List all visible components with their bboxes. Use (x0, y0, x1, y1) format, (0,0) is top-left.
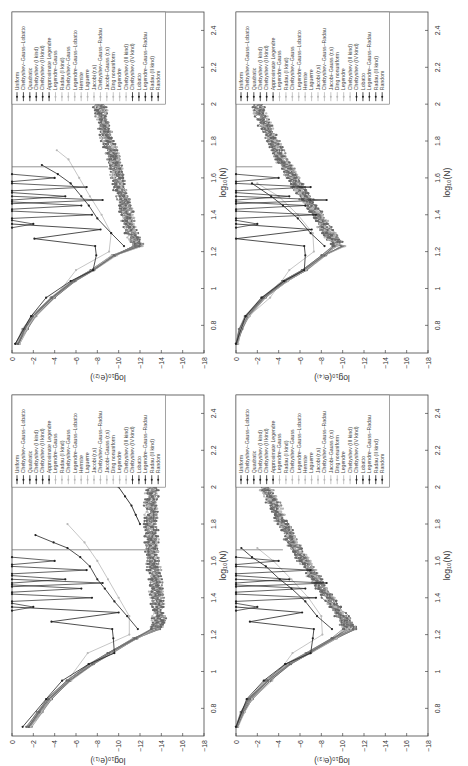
y-tick-label: −12 (361, 740, 368, 752)
x-tick-label: 0.8 (210, 320, 217, 330)
y-tick-label: −4 (51, 740, 58, 748)
legend-entry: Chebyshev (III kind) (123, 44, 129, 90)
legend-entry: Chebyshev (II kind) (39, 45, 45, 90)
y-tick-label: −2 (30, 740, 37, 748)
y-tick-label: −18 (201, 357, 208, 369)
legend-entry: Chebyshev (III kind) (347, 44, 353, 90)
data-series (12, 557, 55, 564)
x-tick-label: 1.4 (434, 210, 441, 220)
x-tick-label: 2 (210, 485, 217, 489)
x-tick-label: 2.2 (434, 445, 441, 455)
y-tick-label: −16 (403, 740, 410, 752)
data-series (29, 487, 163, 727)
legend-entry: Hermite (78, 72, 84, 90)
legend-entry: Jacobi–Gauss (r,s) (104, 430, 110, 474)
legend-entry: Chebyshev–Gauss (289, 429, 295, 473)
legend-entry: Radau (II kind) (373, 56, 379, 90)
x-tick-label: 2.4 (210, 25, 217, 35)
y-tick-label: 0 (233, 740, 240, 744)
x-tick-label: 1.4 (210, 210, 217, 220)
legend-entry: Radau (I kind) (59, 440, 65, 473)
y-tick-label: −14 (382, 357, 389, 369)
y-tick-label: −12 (137, 740, 144, 752)
legend-entry: Hermite (302, 72, 308, 90)
legend-entry: Legendre–Gauss–Radau (142, 32, 148, 90)
y-tick-label: −12 (361, 357, 368, 369)
legend-entry: Quadratic (251, 67, 257, 90)
legend-entry: Chebyshev (IV kind) (129, 426, 135, 473)
figure-four-panel-convergence: 0−2−4−6−8−10−12−14−16−180.811.21.41.61.8… (0, 0, 468, 766)
x-tick-label: 1.2 (434, 630, 441, 640)
legend-entry: Approximate Legendre (270, 421, 276, 474)
data-series (18, 104, 140, 344)
legend-entry: Radau (II kind) (149, 56, 155, 90)
legend-entry: Lobatto (360, 456, 366, 473)
legend-entry: Chebyshev–Gauss–Lobatto (244, 409, 250, 473)
legend-entry: Legendre (116, 68, 122, 90)
data-series (12, 566, 87, 573)
data-series (12, 607, 119, 727)
x-tick-label: 0.8 (434, 703, 441, 713)
legend-entry: Radau (I kind) (283, 57, 289, 90)
data-series (28, 487, 161, 727)
legend-entry: Chebyshev–Gauss–Lobatto (244, 26, 250, 90)
x-tick-label: 1.4 (434, 593, 441, 603)
data-series (17, 104, 140, 344)
legend-entry: Radau (I kind) (283, 440, 289, 473)
legend-entry: Chebyshev–Gauss–Radau (97, 28, 103, 90)
legend-entry: Lobatto (136, 73, 142, 90)
legend-entry: Laguerre (308, 69, 314, 90)
legend-entry: Uniform (14, 455, 20, 473)
legend-entry: Legendre (116, 451, 122, 473)
y-tick-label: −8 (94, 740, 101, 748)
legend-entry: Chebyshev (III kind) (123, 427, 129, 473)
data-series (12, 174, 55, 181)
data-series (12, 594, 92, 601)
legend-entry: Jacobi–Gauss (r,s) (104, 47, 110, 91)
legend-entry: Approximate Legendre (46, 421, 52, 474)
y-axis-label: log₁₀(e₍₄₎) (314, 373, 350, 383)
legend-entry: Legendre–Gauss–Radau (366, 32, 372, 90)
legend-entry: Approximate Legendre (46, 38, 52, 91)
data-series (18, 104, 140, 344)
data-series (236, 174, 279, 181)
data-series (16, 104, 140, 344)
y-tick-label: −4 (275, 357, 282, 365)
y-tick-label: 0 (9, 357, 16, 361)
y-tick-label: −8 (318, 740, 325, 748)
data-series (236, 224, 312, 344)
legend-entry: Ding nonuniform (110, 435, 116, 473)
y-tick-label: −10 (339, 740, 346, 752)
x-tick-label: 1.8 (210, 136, 217, 146)
x-axis-label: log₁₀(N) (442, 551, 452, 581)
legend-entry: Chebyshev–Gauss–Radau (321, 411, 327, 473)
legend-entry: Chebyshev (II kind) (263, 428, 269, 473)
legend-entry: Legendre–Gauss–Lobatto (72, 413, 78, 473)
legend-entry: Jacobi (r,s) (91, 448, 97, 474)
data-series (18, 104, 136, 344)
legend-entry: Radau (II kind) (149, 439, 155, 473)
legend-entry: Chebyshev–Gauss–Radau (97, 411, 103, 473)
legend-entry: Chebyshev (I kind) (33, 430, 39, 474)
y-tick-label: 0 (9, 740, 16, 744)
legend-entry: Hermite (78, 455, 84, 473)
data-series (236, 211, 316, 218)
panel-e3: 0−2−4−6−8−10−12−14−16−180.811.21.41.61.8… (233, 395, 453, 766)
y-tick-label: −10 (339, 357, 346, 369)
y-tick-label: −6 (297, 740, 304, 748)
legend-entry: Quadratic (251, 450, 257, 473)
legend-entry: Radau (II kind) (373, 439, 379, 473)
x-tick-label: 2.4 (434, 408, 441, 418)
data-series (28, 487, 160, 727)
y-tick-label: −2 (254, 357, 261, 365)
legend-entry: Chebyshev–Gauss (65, 429, 71, 473)
y-tick-label: −8 (94, 357, 101, 365)
panel-e1: 0−2−4−6−8−10−12−14−16−180.811.21.41.61.8… (9, 395, 229, 766)
data-series (17, 104, 137, 344)
legend-entry: Chebyshev–Gauss–Radau (321, 28, 327, 90)
legend-entry: Jacobi (r,s) (91, 65, 97, 91)
legend-entry: Legendre–Gauss–Lobatto (296, 413, 302, 473)
x-tick-label: 2 (434, 485, 441, 489)
legend-entry: Uniform (14, 72, 20, 90)
y-tick-label: −14 (158, 740, 165, 752)
